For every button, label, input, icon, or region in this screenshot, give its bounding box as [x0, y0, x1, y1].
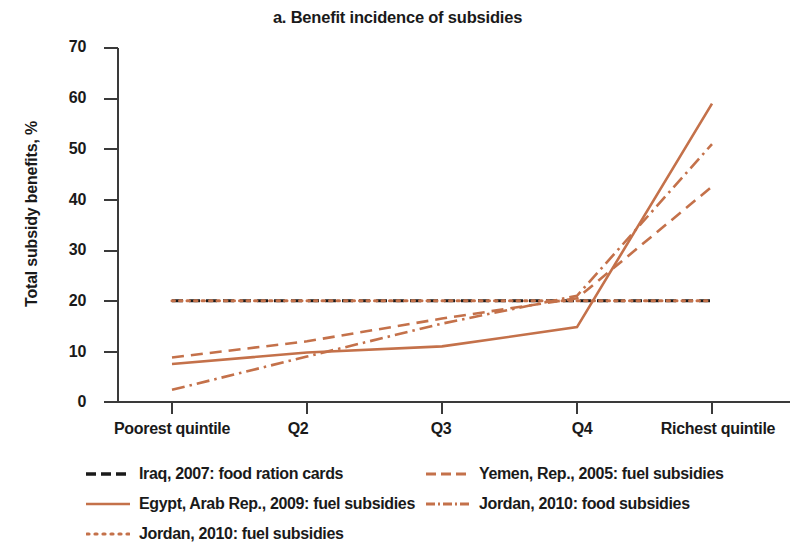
legend-label-iraq: Iraq, 2007: food ration cards	[139, 465, 343, 483]
legend-row: Jordan, 2010: fuel subsidies	[86, 519, 786, 549]
legend-item-jordan-fuel[interactable]: Jordan, 2010: fuel subsidies	[86, 519, 426, 549]
legend-label-egypt: Egypt, Arab Rep., 2009: fuel subsidies	[139, 495, 415, 513]
dashed-line-swatch	[86, 467, 130, 481]
chart-figure: a. Benefit incidence of subsidies Total …	[0, 0, 795, 552]
series-group	[172, 104, 712, 390]
series-line-yemen-rep-2005-fuel-subsidies	[172, 187, 712, 358]
plot-area	[0, 0, 795, 460]
x-axis-ticks	[172, 402, 712, 414]
dashed-line-swatch	[426, 467, 470, 481]
legend-row: Egypt, Arab Rep., 2009: fuel subsidies J…	[86, 489, 786, 519]
dotted-line-swatch	[86, 527, 130, 541]
legend-label-yemen: Yemen, Rep., 2005: fuel subsidies	[479, 465, 724, 483]
dashdot-line-swatch	[426, 497, 470, 511]
legend-row: Iraq, 2007: food ration cards Yemen, Rep…	[86, 459, 786, 489]
series-line-egypt-arab-rep-2009-fuel-subsidies	[172, 104, 712, 364]
legend-item-yemen[interactable]: Yemen, Rep., 2005: fuel subsidies	[426, 459, 786, 489]
legend-item-jordan-food[interactable]: Jordan, 2010: food subsidies	[426, 489, 786, 519]
legend-item-iraq[interactable]: Iraq, 2007: food ration cards	[86, 459, 426, 489]
series-line-jordan-2010-food-subsidies	[172, 144, 712, 390]
chart-legend: Iraq, 2007: food ration cards Yemen, Rep…	[86, 459, 786, 549]
axis-lines	[104, 48, 790, 402]
solid-line-swatch	[86, 497, 130, 511]
legend-item-empty	[426, 519, 786, 549]
legend-label-jordan-fuel: Jordan, 2010: fuel subsidies	[139, 525, 344, 543]
legend-item-egypt[interactable]: Egypt, Arab Rep., 2009: fuel subsidies	[86, 489, 426, 519]
legend-label-jordan-food: Jordan, 2010: food subsidies	[479, 495, 690, 513]
y-axis-ticks	[104, 48, 118, 352]
